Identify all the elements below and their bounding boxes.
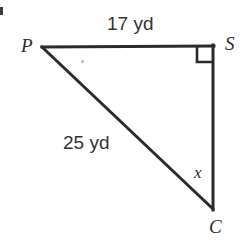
vertex-label-p: P (21, 36, 33, 55)
side-length-label-ps: 17 yd (107, 14, 153, 33)
side-length-label-pc: 25 yd (63, 133, 109, 152)
side-top-PS (42, 46, 214, 47)
right-angle-square-icon (197, 47, 212, 62)
angle-label-x: x (194, 164, 202, 181)
vertex-label-s: S (225, 34, 235, 53)
triangle-drawing (0, 0, 248, 243)
side-hypotenuse-PC (42, 47, 213, 209)
scan-speck-artifact (81, 60, 84, 63)
geometry-figure: P S C 17 yd 25 yd x (0, 0, 248, 243)
scan-edge-artifact (0, 7, 3, 15)
vertex-label-c: C (209, 217, 222, 236)
